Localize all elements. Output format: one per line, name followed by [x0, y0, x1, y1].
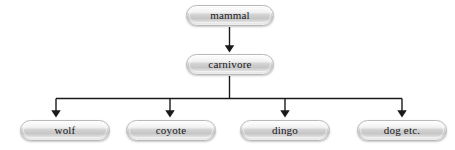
node-mammal[interactable]: mammal — [186, 5, 274, 26]
node-label-carnivore: carnivore — [208, 59, 251, 70]
node-wolf[interactable]: wolf — [20, 120, 110, 141]
node-coyote[interactable]: coyote — [126, 120, 216, 141]
node-label-wolf: wolf — [55, 125, 76, 136]
node-dingo[interactable]: dingo — [240, 120, 330, 141]
node-label-coyote: coyote — [156, 125, 187, 136]
node-label-dingo: dingo — [272, 125, 298, 136]
node-label-dog-etc: dog etc. — [384, 125, 420, 136]
node-dog-etc[interactable]: dog etc. — [357, 120, 447, 141]
node-carnivore[interactable]: carnivore — [186, 54, 274, 75]
node-label-mammal: mammal — [210, 10, 250, 21]
diagram-canvas: mammal carnivore wolf coyote dingo dog e… — [0, 0, 455, 150]
